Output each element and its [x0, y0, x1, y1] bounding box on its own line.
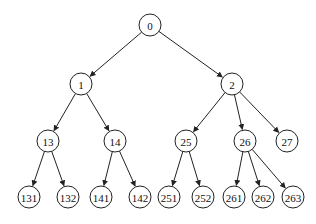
edge-1-14: [87, 93, 109, 130]
edge-25-252: [189, 152, 199, 186]
node-label: 1: [78, 79, 84, 91]
tree-node-262: 262: [252, 186, 274, 208]
node-label: 27: [282, 136, 294, 148]
node-label: 261: [226, 192, 243, 204]
nodes-group: 0121314252627131132141142251252261262263: [18, 14, 304, 208]
tree-node-26: 26: [234, 130, 256, 152]
node-label: 142: [132, 192, 149, 204]
tree-node-13: 13: [37, 130, 59, 152]
node-label: 26: [240, 136, 252, 148]
edge-1-13: [54, 94, 75, 131]
edge-0-2: [159, 31, 222, 77]
tree-node-263: 263: [282, 186, 304, 208]
edge-14-142: [119, 151, 135, 186]
tree-node-0: 0: [139, 14, 161, 36]
edge-26-262: [248, 151, 259, 185]
tree-node-27: 27: [276, 130, 298, 152]
edge-26-261: [236, 152, 243, 185]
node-label: 14: [110, 136, 122, 148]
tree-node-131: 131: [18, 186, 40, 208]
node-label: 263: [285, 192, 302, 204]
node-label: 13: [43, 136, 55, 148]
tree-node-252: 252: [192, 186, 214, 208]
edge-26-263: [252, 149, 285, 188]
edge-2-27: [240, 92, 279, 132]
edge-13-132: [52, 151, 64, 185]
node-label: 2: [229, 79, 235, 91]
tree-diagram: 0121314252627131132141142251252261262263: [0, 0, 316, 224]
tree-node-25: 25: [175, 130, 197, 152]
tree-node-141: 141: [90, 186, 112, 208]
edge-14-141: [104, 152, 112, 186]
node-label: 252: [195, 192, 212, 204]
tree-node-1: 1: [70, 73, 92, 95]
node-label: 25: [181, 136, 193, 148]
tree-node-142: 142: [129, 186, 151, 208]
node-label: 0: [147, 20, 153, 32]
tree-node-261: 261: [223, 186, 245, 208]
node-label: 262: [255, 192, 272, 204]
edge-13-131: [33, 151, 45, 185]
node-label: 251: [161, 192, 178, 204]
edges-group: [33, 31, 285, 187]
node-label: 131: [21, 192, 38, 204]
node-label: 132: [60, 192, 77, 204]
tree-node-251: 251: [158, 186, 180, 208]
node-label: 141: [93, 192, 110, 204]
tree-node-132: 132: [57, 186, 79, 208]
edge-25-251: [172, 152, 182, 186]
edge-0-1: [90, 32, 142, 76]
edge-2-26: [234, 95, 242, 130]
edge-2-25: [194, 93, 226, 132]
tree-node-14: 14: [104, 130, 126, 152]
tree-node-2: 2: [221, 73, 243, 95]
